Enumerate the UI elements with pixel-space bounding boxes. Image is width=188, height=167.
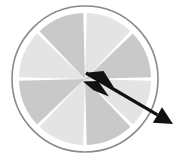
spinner-wheel-canvas: Spinner wheel with arrow pointer: [0, 0, 188, 167]
spinner-wheel-graphic: [0, 0, 188, 167]
